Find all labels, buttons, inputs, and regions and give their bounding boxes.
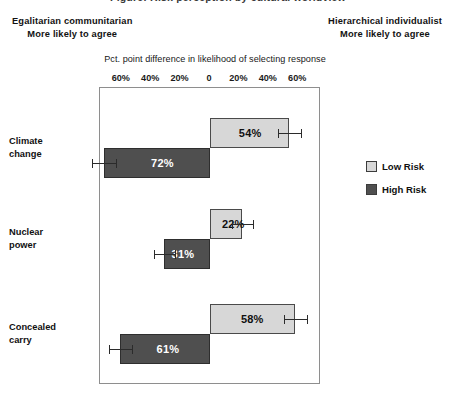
error-bar-low-risk-2-cap-1 xyxy=(307,315,308,324)
error-bar-low-risk-0 xyxy=(278,133,302,134)
error-bar-low-risk-1 xyxy=(232,224,253,225)
legend-swatch-low-risk-icon xyxy=(366,161,377,172)
pole-header-left-line2: More likely to agree xyxy=(12,28,133,41)
pole-header-left: Egalitarian communitarian More likely to… xyxy=(12,15,133,40)
bar-value-high-risk-0: 72% xyxy=(151,157,174,169)
error-bar-high-risk-0 xyxy=(92,163,116,164)
category-label-0-line-0: Climate xyxy=(9,135,95,148)
error-bar-low-risk-2-cap-0 xyxy=(284,315,285,324)
pole-header-right: Hierarchical individualist More likely t… xyxy=(328,15,442,40)
error-bar-high-risk-0-cap-0 xyxy=(92,159,93,168)
category-label-2: Concealedcarry xyxy=(9,321,95,346)
legend-label-high-risk: High Risk xyxy=(382,184,426,195)
legend-item-low-risk[interactable]: Low Risk xyxy=(366,158,452,174)
category-label-0: Climatechange xyxy=(9,135,95,160)
error-bar-high-risk-0-cap-1 xyxy=(116,159,117,168)
error-bar-high-risk-1-cap-0 xyxy=(154,250,155,259)
error-bar-high-risk-2-cap-0 xyxy=(109,345,110,354)
error-bar-low-risk-1-cap-1 xyxy=(253,220,254,229)
error-bar-high-risk-2 xyxy=(109,349,133,350)
error-bar-high-risk-1 xyxy=(154,254,175,255)
x-axis-tick-labels: 60%40%20%020%40%60% xyxy=(0,73,456,86)
error-bar-low-risk-0-cap-1 xyxy=(301,129,302,138)
bar-value-high-risk-2: 61% xyxy=(157,343,180,355)
legend-label-low-risk: Low Risk xyxy=(382,161,424,172)
pole-header-left-line1: Egalitarian communitarian xyxy=(12,15,133,28)
category-label-2-line-0: Concealed xyxy=(9,321,95,334)
legend-item-high-risk[interactable]: High Risk xyxy=(366,181,452,197)
x-axis-title: Pct. point difference in likelihood of s… xyxy=(72,54,358,64)
error-bar-low-risk-1-cap-0 xyxy=(232,220,233,229)
bar-value-low-risk-2: 58% xyxy=(241,313,264,325)
bar-high-risk-0: 72% xyxy=(104,148,210,178)
category-label-0-line-1: change xyxy=(9,148,95,161)
pole-header-right-line1: Hierarchical individualist xyxy=(328,15,442,28)
error-bar-low-risk-0-cap-0 xyxy=(278,129,279,138)
bar-low-risk-2: 58% xyxy=(210,304,295,334)
clipped-title-text: Figure: Risk perception by cultural worl… xyxy=(0,0,456,3)
category-label-1-line-1: power xyxy=(9,239,95,252)
clipped-title-strip: Figure: Risk perception by cultural worl… xyxy=(0,0,456,8)
category-label-1: Nuclearpower xyxy=(9,226,95,251)
error-bar-high-risk-2-cap-1 xyxy=(132,345,133,354)
chart-legend: Low Risk High Risk xyxy=(366,158,452,204)
category-label-2-line-1: carry xyxy=(9,334,95,347)
bar-value-low-risk-0: 54% xyxy=(239,127,262,139)
plot-area: 54%72%22%31%58%61% xyxy=(99,87,320,384)
x-tick-label-6: 60% xyxy=(277,73,317,83)
error-bar-low-risk-2 xyxy=(284,319,308,320)
bar-high-risk-2: 61% xyxy=(120,334,210,364)
pole-header-right-line2: More likely to agree xyxy=(328,28,442,41)
plot-inner: 54%72%22%31%58%61% xyxy=(100,88,319,383)
error-bar-high-risk-1-cap-1 xyxy=(175,250,176,259)
category-label-1-line-0: Nuclear xyxy=(9,226,95,239)
legend-swatch-high-risk-icon xyxy=(366,184,377,195)
